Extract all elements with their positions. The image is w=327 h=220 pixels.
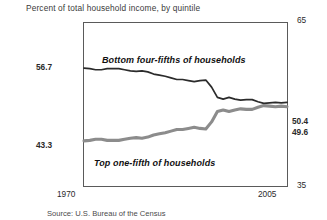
value-label-left-upper: 56.7 (36, 62, 52, 72)
value-label-left-lower: 43.3 (36, 140, 52, 150)
chart-title: Percent of total household income, by qu… (26, 3, 200, 13)
source-note: Source: U.S. Bureau of the Census (47, 209, 166, 218)
y-axis-label-top: 65 (297, 15, 306, 25)
series-annotation-top-one-fifth: Top one-fifth of households (94, 158, 215, 168)
series-annotation-bottom-four-fifths: Bottom four-fifths of households (102, 55, 246, 65)
income-quintile-chart-figure: Percent of total household income, by qu… (0, 0, 327, 220)
value-label-right-upper: 50.4 (292, 116, 308, 126)
x-axis-label-end: 2005 (258, 189, 276, 199)
y-axis-label-bottom: 35 (297, 180, 306, 190)
value-label-right-lower: 49.6 (292, 127, 308, 137)
x-axis-label-start: 1970 (57, 189, 75, 199)
